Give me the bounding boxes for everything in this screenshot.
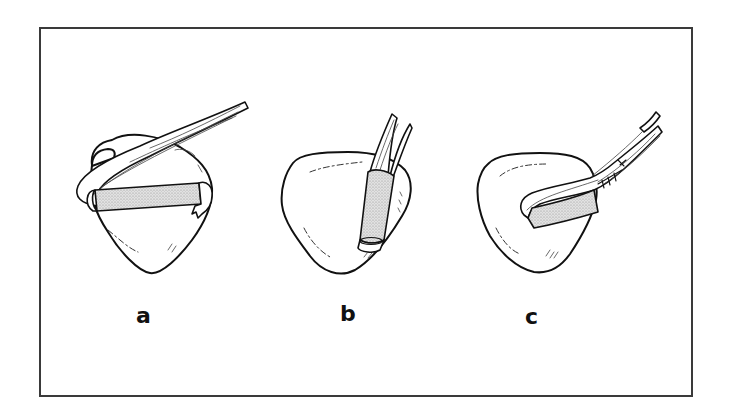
panel-label-a: a (136, 305, 151, 327)
panel-label-b: b (340, 303, 356, 325)
panel-label-c: c (525, 306, 538, 328)
panel-a-illustration (77, 102, 248, 273)
figure-artwork (0, 0, 730, 416)
panel-c-illustration (478, 112, 663, 272)
panel-b-illustration (282, 114, 412, 274)
